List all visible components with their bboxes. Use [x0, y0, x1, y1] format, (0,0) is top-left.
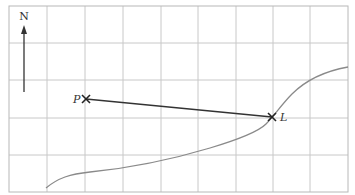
coastline-curve [46, 67, 348, 188]
grid-border [9, 6, 348, 192]
map-diagram: N P L [0, 0, 355, 195]
point-p-label: P [72, 93, 81, 106]
arrow-head-icon [21, 25, 27, 34]
north-label: N [19, 10, 29, 23]
point-l-label: L [279, 111, 287, 124]
grid [9, 6, 348, 192]
point-p: P [72, 93, 90, 106]
bearing-line-p-l [86, 99, 272, 117]
